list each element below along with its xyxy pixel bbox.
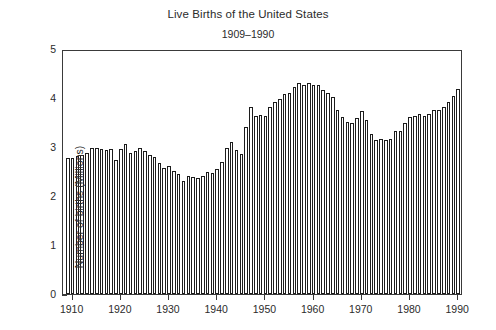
bar-1924 [138, 148, 142, 294]
plot-area: Number of births (Millions) [62, 50, 462, 295]
y-tick-0 [62, 295, 67, 296]
bar-1909 [66, 158, 70, 294]
bar-1922 [129, 153, 133, 294]
bar-1932 [177, 174, 181, 294]
bar-1942 [225, 148, 229, 295]
bar-1940 [215, 169, 219, 294]
bar-1936 [196, 178, 200, 294]
y-axis-title: Number of births (Millions) [73, 127, 85, 287]
bar-1972 [370, 134, 374, 294]
bar-1986 [437, 110, 441, 294]
bar-1943 [230, 142, 234, 294]
bar-1950 [264, 116, 268, 294]
bar-1952 [273, 102, 277, 294]
bar-1923 [134, 151, 138, 294]
x-tick-label-1990: 1990 [437, 303, 477, 315]
x-tick-label-1930: 1930 [148, 303, 188, 315]
bar-1985 [432, 110, 436, 294]
bar-1957 [297, 83, 301, 294]
chart-figure: Live Births of the United States 1909–19… [0, 0, 496, 330]
bar-1948 [254, 116, 258, 294]
bar-1917 [105, 150, 109, 294]
x-tick-1970 [361, 295, 362, 300]
x-tick-label-1910: 1910 [52, 303, 92, 315]
bar-1958 [302, 85, 306, 294]
bar-1966 [341, 117, 345, 294]
x-tick-1930 [168, 295, 169, 300]
bar-1987 [442, 107, 446, 294]
bar-1969 [355, 118, 359, 294]
bar-1951 [268, 107, 272, 294]
bar-1914 [90, 148, 94, 294]
bar-1913 [85, 153, 89, 294]
x-tick-label-1940: 1940 [196, 303, 236, 315]
bar-1938 [206, 172, 210, 295]
y-tick-label-4: 4 [26, 92, 56, 104]
y-tick-label-1: 1 [26, 239, 56, 251]
bar-1927 [153, 157, 157, 294]
x-tick-label-1970: 1970 [341, 303, 381, 315]
chart-subtitle: 1909–1990 [0, 28, 496, 40]
x-tick-label-1960: 1960 [293, 303, 333, 315]
x-tick-1910 [72, 295, 73, 300]
x-tick-label-1980: 1980 [389, 303, 429, 315]
bar-1915 [95, 148, 99, 294]
bar-1925 [143, 151, 147, 294]
bar-1962 [321, 90, 325, 294]
bar-1974 [379, 139, 383, 294]
x-tick-1990 [457, 295, 458, 300]
bar-1919 [114, 160, 118, 294]
bar-1931 [172, 171, 176, 294]
bar-1979 [403, 123, 407, 294]
x-tick-1980 [409, 295, 410, 300]
bar-1929 [162, 168, 166, 294]
x-tick-label-1950: 1950 [244, 303, 284, 315]
bar-1935 [191, 177, 195, 294]
bar-1976 [389, 139, 393, 294]
y-tick-label-0: 0 [26, 288, 56, 300]
bar-1983 [423, 116, 427, 294]
chart-title: Live Births of the United States [0, 8, 496, 20]
y-tick-label-3: 3 [26, 141, 56, 153]
bar-1933 [182, 181, 186, 294]
bar-1937 [201, 176, 205, 294]
bar-1954 [283, 94, 287, 294]
x-tick-1950 [264, 295, 265, 300]
bar-1947 [249, 107, 253, 294]
bar-1930 [167, 166, 171, 294]
bar-1989 [452, 96, 456, 294]
bar-1988 [447, 102, 451, 294]
x-tick-1940 [216, 295, 217, 300]
bar-1984 [427, 114, 431, 294]
bar-1926 [148, 155, 152, 294]
bar-1975 [384, 140, 388, 294]
bar-1968 [350, 123, 354, 295]
bar-1977 [394, 131, 398, 294]
bar-1920 [119, 149, 123, 294]
bar-1955 [288, 93, 292, 294]
bar-series [63, 51, 461, 294]
bar-1949 [259, 115, 263, 294]
x-tick-label-1920: 1920 [100, 303, 140, 315]
bar-1963 [326, 93, 330, 294]
bar-1959 [307, 83, 311, 294]
bar-1978 [399, 131, 403, 294]
bar-1956 [293, 87, 297, 294]
x-tick-1920 [120, 295, 121, 300]
bar-1945 [240, 154, 244, 294]
x-tick-1960 [313, 295, 314, 300]
y-tick-label-2: 2 [26, 190, 56, 202]
bar-1928 [158, 163, 162, 294]
bar-1944 [235, 150, 239, 294]
y-tick-label-5: 5 [26, 43, 56, 55]
bar-1934 [187, 176, 191, 294]
bar-1971 [365, 120, 369, 294]
bar-1981 [413, 116, 417, 294]
bar-1941 [220, 162, 224, 294]
bar-1946 [244, 127, 248, 294]
bar-1921 [124, 144, 128, 294]
bar-1964 [331, 97, 335, 294]
bar-1973 [374, 140, 378, 294]
bar-1970 [360, 111, 364, 294]
bar-1980 [408, 117, 412, 294]
